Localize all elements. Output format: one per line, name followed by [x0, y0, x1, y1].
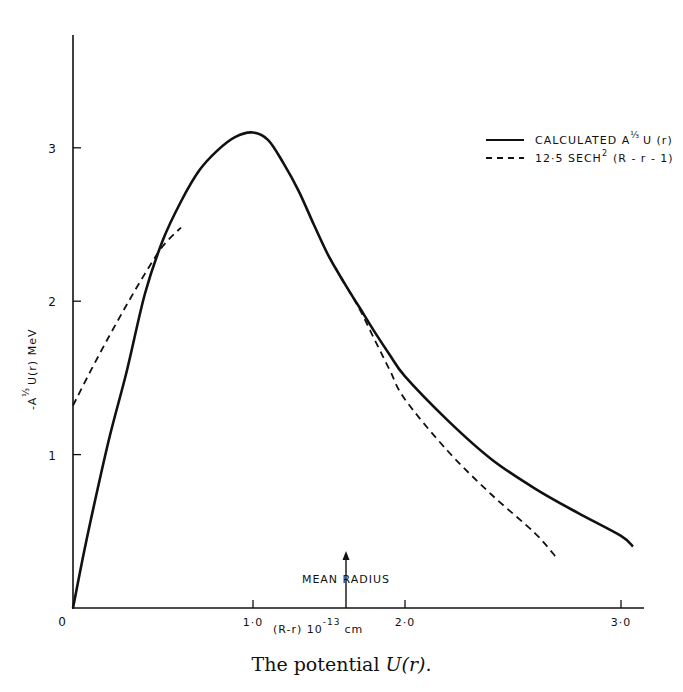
legend-label-sech: 12·5 SECH — [535, 152, 602, 165]
x-axis-title: (R-r) 10-13cm — [273, 617, 363, 636]
x-tick-label: 1·0 — [243, 616, 264, 629]
x-title-main: (R-r) 10 — [273, 623, 323, 636]
x-tick-label: 2·0 — [395, 616, 416, 629]
axes — [72, 35, 644, 609]
series-sech-line — [329, 257, 556, 558]
legend-item-sech: 12·5 SECH2(R - r - 1) — [486, 149, 674, 165]
y-title-unit: U(r) MeV — [26, 329, 39, 385]
y-axis-title: -A⅓U(r) MeV — [21, 329, 39, 410]
svg-text:-A⅓U(r) MeV: -A⅓U(r) MeV — [21, 329, 39, 410]
y-tick-label: 0 — [58, 615, 66, 629]
y-tick-label: 1 — [48, 449, 56, 463]
y-ticks: 0123 — [48, 142, 81, 629]
svg-text:12·5 SECH2(R - r - 1): 12·5 SECH2(R - r - 1) — [535, 149, 674, 165]
y-tick-label: 2 — [48, 295, 56, 309]
figure-caption: The potential U(r). — [0, 653, 683, 675]
potential-chart: 0123 1·02·03·0 MEAN RADIUS (R-r) 10-13cm… — [0, 0, 683, 692]
x-tick-label: 3·0 — [611, 616, 632, 629]
svg-text:(R-r) 10-13cm: (R-r) 10-13cm — [273, 617, 363, 636]
svg-text:CALCULATED A⅓U (r): CALCULATED A⅓U (r) — [535, 130, 673, 147]
x-title-unit: cm — [344, 623, 363, 636]
series-layer — [73, 132, 633, 608]
x-title-exponent: -13 — [323, 617, 341, 627]
legend: CALCULATED A⅓U (r) 12·5 SECH2(R - r - 1) — [486, 130, 674, 165]
y-title-main: -A — [26, 397, 39, 410]
caption-suffix: . — [425, 653, 431, 675]
mean-radius-label: MEAN RADIUS — [302, 573, 390, 586]
series-calculated-line — [73, 132, 633, 608]
arrow-up-icon — [343, 551, 350, 560]
caption-math: U(r) — [386, 653, 426, 675]
legend-label-calculated: CALCULATED A — [535, 134, 630, 147]
mean-radius-annotation: MEAN RADIUS — [302, 551, 390, 608]
series-sech-line — [73, 228, 181, 406]
y-tick-label: 3 — [48, 142, 56, 156]
caption-prefix: The potential — [251, 653, 385, 675]
y-title-exponent: ⅓ — [21, 387, 31, 397]
legend-item-calculated: CALCULATED A⅓U (r) — [486, 130, 673, 147]
